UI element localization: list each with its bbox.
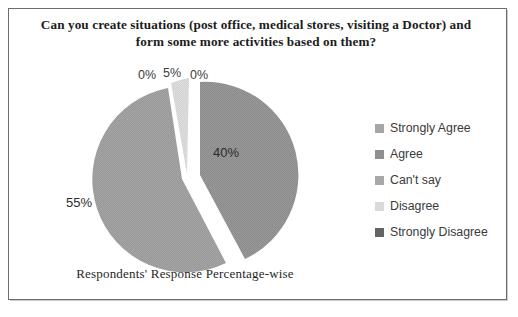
legend-label: Disagree (390, 199, 439, 213)
legend-swatch-icon (375, 228, 384, 237)
legend-label: Strongly Agree (390, 121, 471, 135)
pie-label-cant-say: 55% (66, 195, 92, 210)
pie-label-disagree: 5% (163, 66, 181, 80)
page-title: Can you create situations (post office, … (40, 16, 472, 50)
legend-swatch-icon (375, 124, 384, 133)
legend-label: Agree (390, 147, 423, 161)
legend-item-strongly-disagree: Strongly Disagree (375, 219, 505, 245)
pie-chart-svg (18, 60, 358, 275)
pie-chart-plot-area: 0% 5% 0% 40% 55% (18, 60, 358, 275)
legend-swatch-icon (375, 150, 384, 159)
chart-caption: Respondents' Response Percentage-wise (20, 266, 350, 282)
legend-item-cant-say: Can't say (375, 167, 505, 193)
legend-swatch-icon (375, 202, 384, 211)
chart-legend: Strongly Agree Agree Can't say Disagree … (375, 115, 505, 245)
pie-label-strongly-agree: 0% (138, 68, 156, 82)
legend-item-agree: Agree (375, 141, 505, 167)
legend-item-strongly-agree: Strongly Agree (375, 115, 505, 141)
legend-item-disagree: Disagree (375, 193, 505, 219)
legend-swatch-icon (375, 176, 384, 185)
pie-label-agree: 40% (213, 145, 239, 160)
pie-label-strongly-disagree: 0% (190, 68, 208, 82)
legend-label: Can't say (390, 173, 441, 187)
chart-page: Can you create situations (post office, … (0, 0, 518, 317)
pie-slice-agree (200, 82, 298, 259)
legend-label: Strongly Disagree (390, 225, 488, 239)
